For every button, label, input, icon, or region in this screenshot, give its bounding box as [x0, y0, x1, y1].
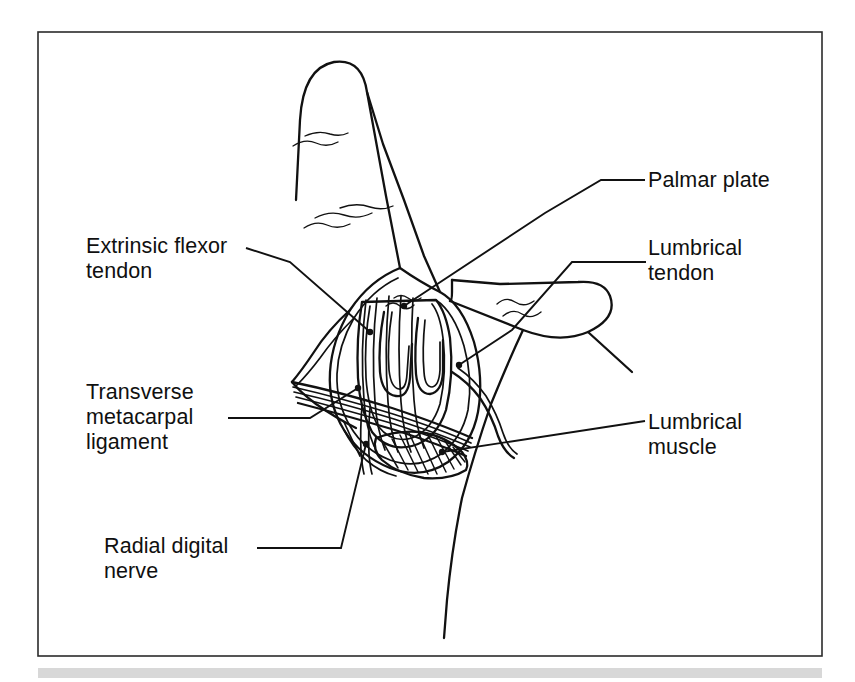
label-transverse-metacarpal-ligament: Transverse metacarpal ligament: [86, 380, 256, 455]
figure-root: Palmar plate Lumbrical tendon Lumbrical …: [0, 0, 855, 682]
label-radial-digital-nerve: Radial digital nerve: [104, 534, 274, 584]
label-lumbrical-muscle: Lumbrical muscle: [648, 410, 742, 460]
footer-strip: [38, 668, 822, 678]
label-extrinsic-flexor-tendon: Extrinsic flexor tendon: [86, 234, 256, 284]
label-palmar-plate: Palmar plate: [648, 168, 770, 193]
label-lumbrical-tendon: Lumbrical tendon: [648, 236, 742, 286]
